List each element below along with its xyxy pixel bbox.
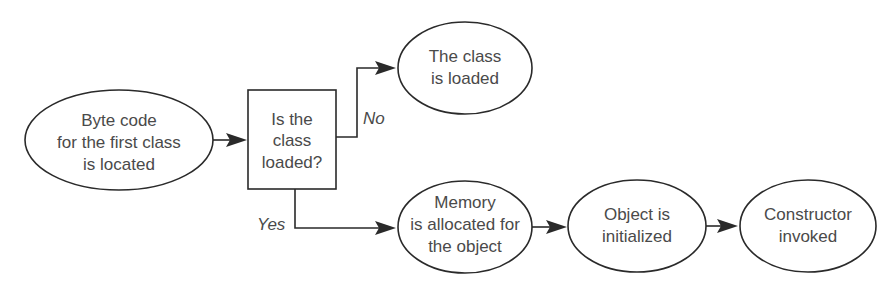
- edge-line: [295, 189, 383, 228]
- node-class-loaded-line-1: The class: [429, 47, 502, 66]
- node-class-loaded-line-2: is loaded: [431, 69, 499, 88]
- edge-label-yes: Yes: [257, 215, 286, 234]
- edge-label-no: No: [363, 109, 385, 128]
- node-constructor-line-1: Constructor: [764, 205, 852, 224]
- node-class-is-loaded: The class is loaded: [398, 22, 532, 114]
- node-bytecode-line-2: for the first class: [57, 133, 181, 152]
- edge-bytecode-to-decision: [213, 133, 247, 147]
- node-constructor-line-2: invoked: [779, 227, 838, 246]
- node-initialized-ellipse: [568, 180, 706, 272]
- node-memory-line-1: Memory: [434, 193, 496, 212]
- node-bytecode-line-3: is located: [83, 155, 155, 174]
- node-class-loaded-ellipse: [398, 22, 532, 114]
- edge-memory-to-initialized: [532, 220, 567, 234]
- node-decision-line-3: loaded?: [262, 153, 323, 172]
- node-object-initialized: Object is initialized: [568, 180, 706, 272]
- node-memory-line-3: the object: [428, 237, 502, 256]
- node-decision-line-2: class: [273, 131, 312, 150]
- node-decision-line-1: Is the: [271, 110, 313, 129]
- node-constructor-invoked: Constructor invoked: [740, 180, 876, 272]
- node-initialized-line-1: Object is: [604, 205, 670, 224]
- edge-decision-yes: Yes: [257, 189, 396, 235]
- node-constructor-ellipse: [740, 180, 876, 272]
- node-decision-class-loaded: Is the class loaded?: [248, 90, 336, 189]
- node-bytecode-line-1: Byte code: [81, 111, 157, 130]
- node-initialized-line-2: initialized: [602, 227, 672, 246]
- edge-initialized-to-constructor: [706, 219, 738, 233]
- node-memory-allocated: Memory is allocated for the object: [398, 181, 532, 273]
- flowchart: Byte code for the first class is located…: [0, 0, 888, 288]
- edge-decision-no: No: [336, 61, 396, 137]
- node-memory-line-2: is allocated for: [410, 215, 520, 234]
- node-bytecode-located: Byte code for the first class is located: [25, 90, 213, 190]
